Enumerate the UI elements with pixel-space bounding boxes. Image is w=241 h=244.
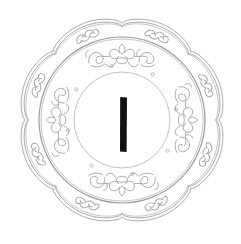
leaf-scroll (136, 50, 156, 68)
lotus-bloom (46, 94, 69, 146)
lotus-bloom (175, 94, 198, 146)
dot-ornament (151, 73, 154, 76)
leaf-scroll (175, 84, 193, 104)
leaf-scroll (175, 134, 193, 154)
lobed-dish-drawing (0, 0, 241, 244)
leaf-scroll (139, 173, 159, 191)
central-vertical-stroke (120, 97, 127, 152)
dot-ornament (75, 88, 78, 91)
leaf-scroll (52, 86, 70, 106)
leaf-scroll (88, 173, 108, 191)
leaf-scroll (52, 137, 70, 157)
lotus-bloom (96, 173, 148, 196)
leaf-scroll (86, 50, 106, 68)
dot-ornament (166, 149, 169, 152)
dot-ornament (90, 164, 93, 167)
lotus-bloom (96, 44, 148, 67)
